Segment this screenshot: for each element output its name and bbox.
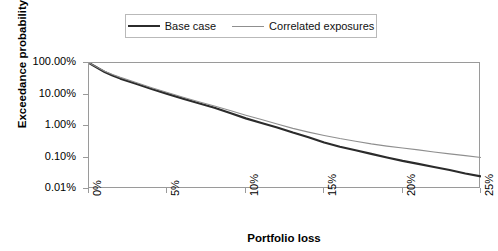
legend-line-correlated-exposures — [232, 26, 264, 27]
x-tick-mark — [323, 188, 324, 193]
x-tick-mark — [166, 188, 167, 193]
legend-label-correlated-exposures: Correlated exposures — [269, 21, 374, 32]
legend-entry-base-case: Base case — [128, 21, 216, 32]
x-tick-label: 5% — [170, 180, 181, 196]
series-line — [89, 63, 481, 176]
y-tick-label: 0.10% — [45, 151, 76, 162]
x-tick-label: 15% — [327, 174, 338, 196]
series-lines — [89, 63, 481, 189]
series-line — [89, 63, 481, 158]
y-tick-label: 1.00% — [45, 119, 76, 130]
x-tick-label: 20% — [406, 174, 417, 196]
chart-legend: Base case Correlated exposures — [125, 14, 377, 38]
x-tick-mark — [245, 188, 246, 193]
legend-line-base-case — [128, 25, 160, 27]
x-tick-mark — [88, 188, 89, 193]
x-tick-mark — [402, 188, 403, 193]
x-tick-label: 25% — [484, 174, 495, 196]
plot-area — [88, 62, 480, 188]
x-tick-label: 10% — [249, 174, 260, 196]
x-tick-label: 0% — [92, 180, 103, 196]
y-axis-ticks: 100.00%10.00%1.00%0.10%0.01% — [0, 0, 84, 251]
y-tick-label: 100.00% — [33, 56, 76, 67]
legend-entry-correlated-exposures: Correlated exposures — [232, 21, 374, 32]
legend-label-base-case: Base case — [165, 21, 216, 32]
y-tick-label: 0.01% — [45, 182, 76, 193]
x-tick-mark — [480, 188, 481, 193]
y-tick-label: 10.00% — [39, 88, 76, 99]
x-axis-title: Portfolio loss — [88, 232, 480, 244]
exceedance-probability-chart: Base case Correlated exposures Exceedanc… — [0, 0, 498, 251]
